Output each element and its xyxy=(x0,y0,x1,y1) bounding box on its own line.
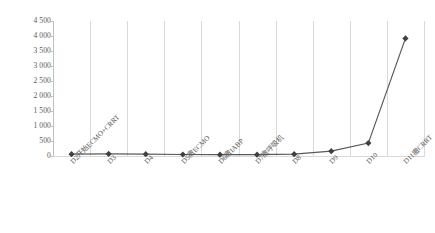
y-axis-tick-mark xyxy=(50,36,53,37)
data-point-marker xyxy=(365,140,371,146)
line-chart: 05001 0001 5002 0002 5003 0003 5004 0004… xyxy=(0,0,435,233)
y-axis-tick-mark xyxy=(50,81,53,82)
data-point-marker xyxy=(402,35,408,41)
y-axis-tick-mark xyxy=(50,111,53,112)
y-axis-tick-mark xyxy=(50,66,53,67)
y-axis-tick-mark xyxy=(50,126,53,127)
series-layer xyxy=(0,0,435,233)
y-axis-tick-mark xyxy=(50,21,53,22)
y-axis-tick-mark xyxy=(50,96,53,97)
y-axis-tick-mark xyxy=(50,51,53,52)
y-axis-tick-mark xyxy=(50,141,53,142)
y-axis-tick-mark xyxy=(50,156,53,157)
